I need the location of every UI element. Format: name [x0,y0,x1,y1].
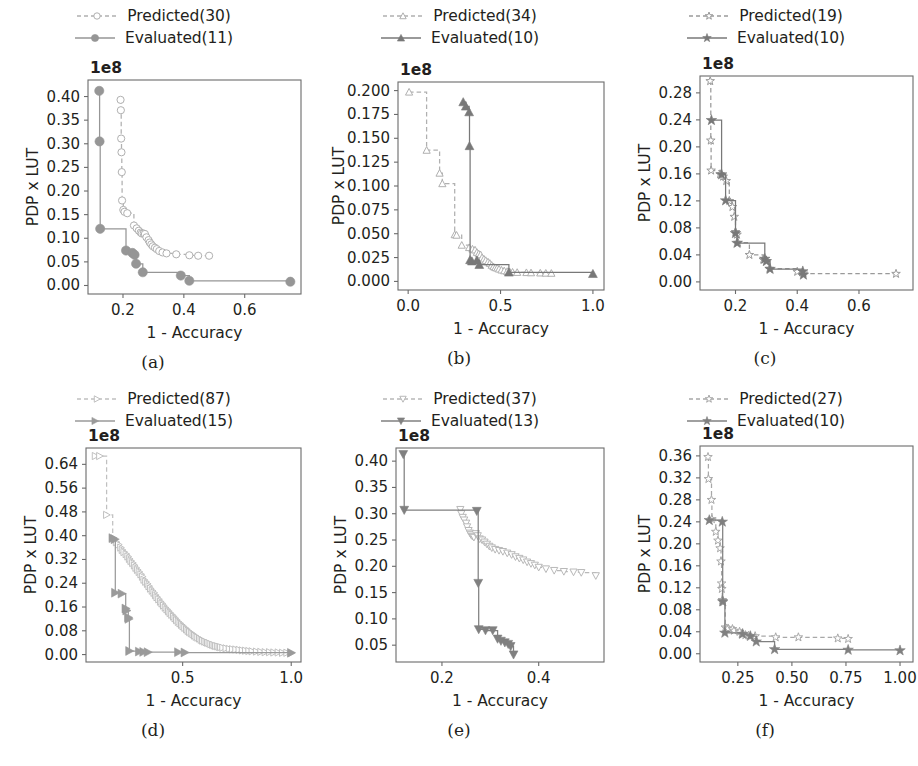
y-tick-label: 0.24 [622,111,692,129]
x-axis-label: 1 - Accuracy [48,324,341,342]
series-markers-evaluated [704,515,905,655]
y-tick-label: 0.48 [8,503,78,521]
y-tick-label: 0.24 [622,513,692,531]
subplot-a: Predicted(30)Evaluated(11)1e80.000.050.1… [0,0,306,383]
y-tick-label: 0.10 [318,610,388,628]
y-axis-label: PDP x LUT [636,128,654,238]
series-line-evaluated [113,538,292,653]
y-tick-label: 0.32 [622,469,692,487]
x-tick-label: 0.4 [509,669,569,687]
y-tick-label: 0.35 [318,478,388,496]
x-tick-label: 0.4 [767,297,827,315]
y-tick-label: 0.20 [10,182,80,200]
figure-root: Predicted(30)Evaluated(11)1e80.000.050.1… [0,0,918,766]
y-tick-label: 0.08 [8,622,78,640]
subplot-caption-f: (f) [612,720,918,740]
series-line-evaluated [463,102,593,274]
y-tick-label: 0.16 [622,165,692,183]
y-tick-label: 0.40 [8,527,78,545]
series-line-predicted [121,100,210,256]
y-tick-label: 0.00 [622,645,692,663]
y-tick-label: 0.15 [318,584,388,602]
series-line-predicted [708,457,848,639]
y-tick-label: 0.10 [10,229,80,247]
subplot-caption-d: (d) [0,720,306,740]
y-tick-label: 0.30 [10,135,80,153]
subplot-b: Predicted(34)Evaluated(10)1e80.0000.0250… [306,0,612,383]
y-tick-label: 0.200 [320,82,390,100]
y-tick-label: 0.28 [622,491,692,509]
x-tick-label: 0.5 [153,669,213,687]
series-markers-predicted [704,452,853,642]
y-tick-label: 0.025 [320,249,390,267]
y-tick-label: 0.25 [318,531,388,549]
subplot-caption-c: (c) [612,348,918,368]
x-tick-label: 0.5 [471,297,531,315]
x-tick-label: 0.4 [154,301,214,319]
y-axis-label: PDP x LUT [332,500,350,610]
series-markers-evaluated [459,98,597,278]
y-tick-label: 0.64 [8,455,78,473]
y-axis-label: PDP x LUT [22,500,40,610]
x-axis-label: 1 - Accuracy [358,320,644,338]
y-tick-label: 0.00 [10,276,80,294]
x-axis-label: 1 - Accuracy [356,692,644,710]
y-tick-label: 0.20 [318,557,388,575]
subplot-c: Predicted(19)Evaluated(10)1e80.000.040.0… [612,0,918,383]
y-tick-label: 0.05 [10,253,80,271]
y-tick-label: 0.12 [622,192,692,210]
y-axis-label: PDP x LUT [330,131,348,241]
series-markers-evaluated [399,451,518,659]
y-tick-label: 0.20 [622,535,692,553]
series-line-predicted [409,92,551,273]
y-tick-label: 0.32 [8,550,78,568]
x-tick-label: 0.6 [829,297,889,315]
x-tick-label: 0.75 [816,669,876,687]
x-tick-label: 0.2 [706,297,766,315]
x-tick-label: 0.25 [708,669,768,687]
x-axis-label: 1 - Accuracy [46,692,341,710]
series-line-evaluated [403,454,513,654]
x-tick-label: 0.6 [215,301,275,319]
series-markers-predicted [706,77,900,278]
y-tick-label: 0.04 [622,623,692,641]
x-tick-label: 0.2 [412,669,472,687]
y-tick-label: 0.05 [318,636,388,654]
y-tick-label: 0.25 [10,158,80,176]
y-tick-label: 0.40 [10,88,80,106]
series-line-predicted [460,510,596,576]
y-tick-label: 0.40 [318,452,388,470]
y-axis-label: PDP x LUT [636,499,654,609]
x-tick-label: 1.00 [870,669,918,687]
subplot-caption-a: (a) [0,352,306,372]
y-tick-label: 0.35 [10,111,80,129]
y-tick-label: 0.15 [10,206,80,224]
y-tick-label: 0.30 [318,505,388,523]
subplot-d: Predicted(87)Evaluated(15)1e80.000.080.1… [0,383,306,766]
x-tick-label: 0.50 [762,669,822,687]
y-tick-label: 0.08 [622,601,692,619]
subplot-caption-e: (e) [306,720,612,740]
series-markers-predicted [405,88,554,276]
y-axis-label: PDP x LUT [24,132,42,242]
series-markers-predicted [92,452,295,656]
x-tick-label: 0.0 [378,297,438,315]
x-tick-label: 0.2 [93,301,153,319]
x-axis-label: 1 - Accuracy [660,320,918,338]
subplot-e: Predicted(37)Evaluated(13)1e80.050.100.1… [306,383,612,766]
y-tick-label: 0.12 [622,579,692,597]
y-tick-label: 0.00 [8,646,78,664]
y-tick-label: 0.24 [8,574,78,592]
y-tick-label: 0.000 [320,272,390,290]
y-tick-label: 0.16 [622,557,692,575]
y-tick-label: 0.08 [622,219,692,237]
y-tick-label: 0.04 [622,246,692,264]
y-tick-label: 0.56 [8,479,78,497]
subplot-caption-b: (b) [306,348,612,368]
series-markers-predicted [117,96,213,259]
y-tick-label: 0.36 [622,447,692,465]
y-tick-label: 0.28 [622,84,692,102]
x-axis-label: 1 - Accuracy [660,692,918,710]
y-tick-label: 0.00 [622,273,692,291]
y-tick-label: 0.16 [8,598,78,616]
